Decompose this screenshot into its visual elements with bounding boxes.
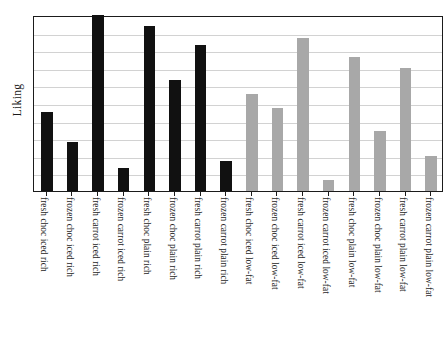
x-axis-tick [302,192,303,196]
x-axis-tick [225,192,226,196]
x-axis-label: frozen carrot iced low-fat [321,197,331,337]
x-axis-tick [200,192,201,196]
bar [169,80,181,191]
bar [400,68,412,191]
bar [41,112,53,191]
bar [144,26,156,191]
x-axis-label: fresh choc plain low-fat [347,197,357,337]
x-axis-label: frozen choc plain rich [168,197,178,337]
bar [118,168,130,191]
x-axis-tick [71,192,72,196]
x-axis-label: fresh choc iced low-fat [244,197,254,337]
x-axis-label: frozen choc iced low-fat [270,197,280,337]
y-axis-title: Liking [2,60,32,140]
bars-layer [34,17,442,191]
bar [349,57,361,191]
x-axis-label: fresh carrot plain low-fat [398,197,408,337]
bar [220,161,232,191]
y-axis-title-text: Liking [11,84,23,116]
bar [323,180,335,191]
bar [67,142,79,191]
x-axis-tick [97,192,98,196]
x-axis-label: fresh carrot plain rich [193,197,203,337]
x-axis-tick [46,192,47,196]
x-axis-tick [148,192,149,196]
x-axis-label: frozen carrot plain rich [219,197,229,337]
bar [246,94,258,191]
x-axis-tick [251,192,252,196]
x-axis-tick [430,192,431,196]
bar [297,38,309,191]
x-axis-tick [379,192,380,196]
x-axis-label: frozen choc plain low-fat [373,197,383,337]
bar [272,108,284,191]
x-axis-tick [123,192,124,196]
bar [374,131,386,191]
x-axis-label: fresh choc plain rich [142,197,152,337]
x-axis-label: frozen carrot plain low-fat [424,197,434,337]
x-axis-tick [328,192,329,196]
x-axis-tick [276,192,277,196]
x-axis-label: fresh carrot iced rich [91,197,101,337]
bar-chart: Liking fresh choc iced richfrozen choc i… [0,0,447,348]
x-axis-tick [353,192,354,196]
bar [425,156,437,191]
x-axis-label: frozen choc iced rich [65,197,75,337]
x-axis-label: fresh carrot iced low-fat [296,197,306,337]
x-axis-label: frozen carrot iced rich [116,197,126,337]
x-axis-label: fresh choc iced rich [39,197,49,337]
bar [92,15,104,191]
bar [195,45,207,191]
x-axis-tick [174,192,175,196]
plot-area [33,16,443,192]
x-axis-tick [405,192,406,196]
x-axis-labels: fresh choc iced richfrozen choc iced ric… [33,197,443,345]
